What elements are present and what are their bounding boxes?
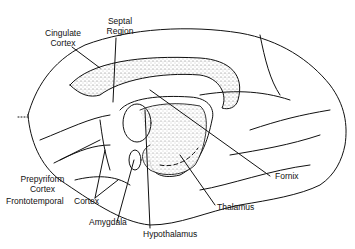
- label-amygdala: Amygdala: [89, 217, 127, 227]
- brain-diagram: Cingulate Cortex Septal Region Prepyrifo…: [0, 0, 355, 249]
- label-fornix: Fornix: [275, 171, 299, 181]
- label-frontotemporal: Frontotemporal: [6, 196, 64, 206]
- label-thalamus: Thalamus: [217, 202, 254, 212]
- label-cingulate-cortex: Cingulate Cortex: [38, 28, 88, 48]
- label-septal-line2: Region: [100, 26, 140, 36]
- label-cingulate-line2: Cortex: [38, 38, 88, 48]
- label-cortex: Cortex: [74, 196, 99, 206]
- label-prepyriform-line2: Cortex: [15, 184, 70, 194]
- label-hypothalamus: Hypothalamus: [143, 229, 197, 239]
- label-prepyriform-cortex: Prepyriform Cortex: [15, 174, 70, 194]
- label-cingulate-line1: Cingulate: [38, 28, 88, 38]
- label-septal-line1: Septal: [100, 16, 140, 26]
- label-prepyriform-line1: Prepyriform: [15, 174, 70, 184]
- label-septal-region: Septal Region: [100, 16, 140, 36]
